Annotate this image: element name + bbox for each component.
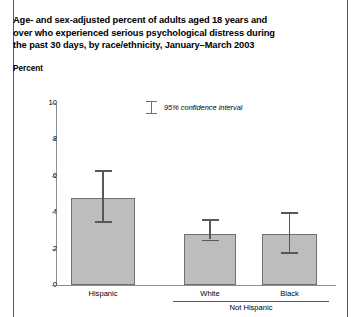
y-tick-mark	[52, 176, 57, 177]
y-tick-mark	[52, 285, 57, 286]
category-label-white: White	[166, 290, 254, 298]
error-bar-stem	[289, 212, 290, 252]
error-bar-stem	[209, 219, 210, 239]
y-tick-mark	[52, 139, 57, 140]
y-tick-mark	[52, 212, 57, 213]
bar-white	[184, 234, 236, 285]
y-tick-mark	[52, 103, 57, 104]
legend: 95% confidence interval	[146, 101, 242, 114]
group-bracket	[173, 301, 329, 302]
error-bar-cap-upper	[202, 219, 219, 220]
error-bar-icon	[146, 101, 157, 114]
error-bar-cap-lower	[95, 221, 112, 222]
error-bar-cap-upper	[95, 170, 112, 171]
legend-label: 95% confidence interval	[164, 103, 242, 112]
category-label-black: Black	[244, 290, 335, 298]
error-bar-stem	[102, 170, 103, 221]
category-label-hispanic: Hispanic	[53, 290, 153, 298]
y-axis-line	[56, 103, 57, 286]
plot-area: 0246810 HispanicWhiteBlack Not Hispanic …	[0, 0, 359, 317]
error-bar-cap-upper	[281, 212, 298, 213]
group-label: Not Hispanic	[173, 304, 329, 312]
y-tick-mark	[52, 249, 57, 250]
error-bar-cap-lower	[281, 252, 298, 253]
error-bar-cap-lower	[202, 240, 219, 241]
x-axis-line	[56, 285, 336, 286]
